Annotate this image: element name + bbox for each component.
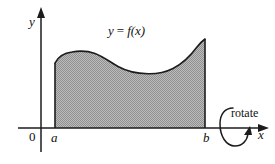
x-axis-label: x [258,128,264,141]
function-equation-y: y [108,23,114,38]
function-equation-label: y=f(x) [108,24,145,37]
y-axis-arrowhead [37,7,45,18]
function-equation-equals: = [114,23,127,38]
figure-region-under-curve: y x 0 a b y=f(x) rotate [0,0,275,164]
lower-bound-label-a: a [51,131,58,144]
origin-label: 0 [29,130,36,143]
shaded-region [55,39,205,128]
upper-bound-label-b: b [203,131,210,144]
rotate-label: rotate [231,107,258,119]
y-axis-label: y [29,15,35,28]
function-equation-argument: (x) [131,23,145,38]
